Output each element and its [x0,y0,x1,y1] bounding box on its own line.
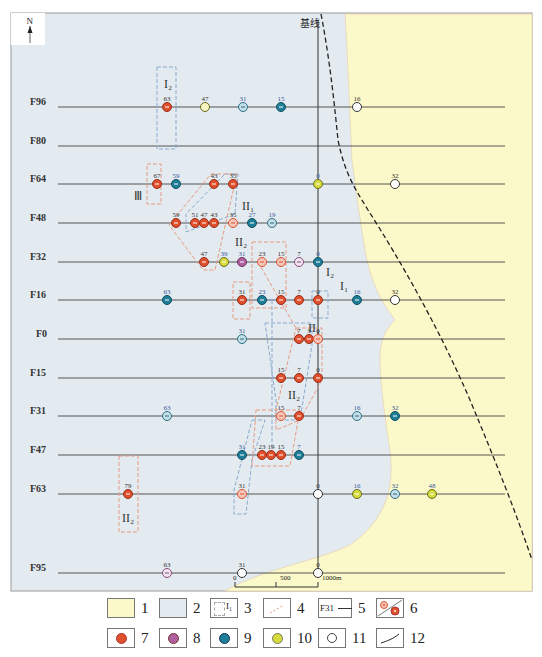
point-value: 43 [211,211,219,219]
legend-num: 5 [358,600,366,617]
north-label: N [27,16,34,26]
scale-label-0: 0 [233,574,237,582]
point-value: 7 [297,250,301,258]
legend-num: 4 [297,600,305,617]
profile-label: F16 [30,289,46,300]
legend-item-7: 7 [107,628,149,648]
point-value: 15 [278,366,286,374]
point-value: 0 [316,172,320,180]
point-value: 51 [192,211,200,219]
point-value: 7 [297,288,301,296]
point-value: 15 [278,288,286,296]
point-value: 0 [316,250,320,258]
point-value: 15 [278,443,286,451]
point-value: 63 [164,404,172,412]
legend-item-12: 12 [376,628,425,648]
map-canvas: N F96F80F64F48F32F16F0F15F31F47F63F95 基线… [0,0,542,596]
teal-point-swatch [210,628,238,648]
point-value: 0 [316,482,320,490]
point-value: 15 [278,250,286,258]
sea-swatch [107,598,135,618]
legend-num: 10 [297,630,312,647]
point-value: 16 [354,288,362,296]
point-value: 15 [278,95,286,103]
point-value: 16 [354,404,362,412]
zone-link-swatch [263,598,291,618]
point-value: 3 [307,327,311,335]
point-value: 47 [202,95,210,103]
point-value: 63 [164,561,172,569]
legend-item-11: 11 [318,628,366,648]
point-value: 19 [269,211,277,219]
zone-label: I₁ [340,279,348,293]
profile-label: F0 [36,328,47,339]
point-value: 63 [164,288,172,296]
curve-line-icon [377,629,403,647]
white-point-icon [327,633,337,643]
point-value: 48 [429,482,437,490]
point-value: 23 [259,443,267,451]
point-value: 31 [239,327,247,335]
point-value: 63 [164,95,172,103]
point-value: 0 [316,327,320,335]
point-value: 7 [297,443,301,451]
white-point-swatch [318,628,346,648]
point-value: 7 [297,404,301,412]
profile-label: F63 [30,483,46,494]
point-value: 31 [239,250,247,258]
profile-label: F95 [30,562,46,573]
legend-item-3: I₁ 3 [210,598,252,618]
legend-item-6: 6 [376,598,418,618]
point-value: 31 [239,482,247,490]
point-value: 47 [201,211,209,219]
point-value: 32 [392,172,400,180]
point-pair-icon [377,599,403,617]
legend-item-4: 4 [263,598,305,618]
zone-label: I₂ [164,77,172,91]
legend-item-9: 9 [210,628,252,648]
point-value: 47 [201,250,209,258]
point-value: 32 [392,482,400,490]
point-value: 16 [354,482,362,490]
scale-label-1000m: 1000m [322,574,342,582]
zone-label: II₂ [288,388,300,402]
point-value: 35 [230,211,238,219]
legend: 1 2 I₁ 3 4 F31 5 6 [0,596,542,657]
point-value: 7 [297,327,301,335]
point-value: 79 [125,482,133,490]
zone-label: Ⅲ [134,189,142,203]
legend-num: 3 [244,600,252,617]
profile-label: F48 [30,212,46,223]
point-value: 39 [221,250,229,258]
profile-text: F31 [320,603,334,613]
point-value: 67 [154,172,162,180]
profile-label: F32 [30,251,46,262]
red-point-swatch [107,628,135,648]
point-value: 27 [249,211,257,219]
yellow-point-swatch [263,628,291,648]
point-value: 31 [239,288,247,296]
point-value: 0 [316,561,320,569]
legend-num: 9 [244,630,252,647]
legend-num: 11 [352,630,366,647]
land-swatch [159,598,187,618]
zone-label: II₂ [122,511,134,525]
profile-label: F80 [30,135,46,146]
purple-point-icon [168,633,179,644]
profile-label: F15 [30,367,46,378]
dashed-rect-icon [214,602,225,616]
point-value: 19 [268,443,276,451]
legend-item-1: 1 [107,598,149,618]
point-value: 59 [173,172,181,180]
legend-num: 8 [193,630,201,647]
profile-label: F64 [30,173,46,184]
point-value: 23 [259,288,267,296]
legend-item-5: F31 5 [318,598,366,618]
baseline-curve-swatch [376,628,404,648]
purple-point-swatch [159,628,187,648]
point-value: 31 [240,95,248,103]
point-value: 23 [259,250,267,258]
red-point-icon [116,633,127,644]
legend-num: 7 [141,630,149,647]
zone-label: I₂ [326,265,334,279]
